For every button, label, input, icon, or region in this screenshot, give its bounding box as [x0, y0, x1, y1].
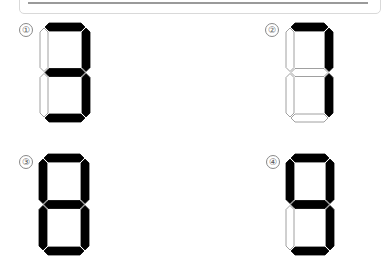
- seven-segment-digit-icon: [285, 22, 334, 123]
- segment-e: [286, 206, 294, 251]
- option-number: ④: [266, 155, 280, 169]
- segment-g: [44, 201, 84, 209]
- segment-d: [44, 247, 84, 255]
- seven-segment-digit-icon: [285, 153, 335, 256]
- segment-e: [39, 206, 47, 251]
- segment-d: [291, 114, 328, 122]
- segment-f: [286, 159, 294, 204]
- segment-a: [44, 154, 84, 162]
- segment-f: [39, 159, 47, 204]
- segment-d: [291, 247, 329, 255]
- segment-a: [45, 23, 85, 31]
- segment-c: [81, 206, 89, 251]
- divider-line: [28, 2, 368, 4]
- segment-c: [326, 206, 334, 251]
- option-number: ③: [19, 155, 33, 169]
- segment-g: [45, 69, 85, 77]
- option-number: ①: [19, 23, 33, 37]
- segment-b: [82, 28, 90, 72]
- segment-b: [81, 159, 89, 204]
- segment-b: [325, 28, 333, 72]
- option-number: ②: [265, 23, 279, 37]
- segment-g: [291, 69, 328, 77]
- segment-a: [291, 23, 328, 31]
- segment-e: [286, 74, 294, 118]
- segment-a: [291, 154, 329, 162]
- segment-b: [326, 159, 334, 204]
- segment-c: [82, 74, 90, 118]
- seven-segment-digit-icon: [38, 153, 90, 256]
- segment-c: [325, 74, 333, 118]
- segment-f: [286, 28, 294, 72]
- segment-f: [40, 28, 48, 72]
- segment-d: [45, 114, 85, 122]
- segment-e: [40, 74, 48, 118]
- segment-g: [291, 201, 329, 209]
- seven-segment-digit-icon: [39, 22, 91, 123]
